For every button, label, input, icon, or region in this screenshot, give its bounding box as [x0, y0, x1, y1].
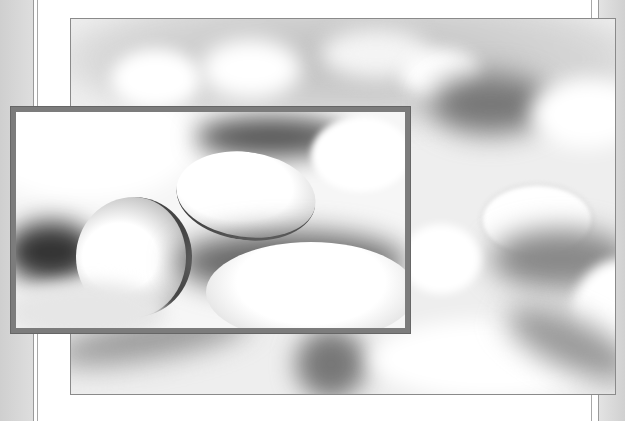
front-photo — [11, 107, 410, 333]
